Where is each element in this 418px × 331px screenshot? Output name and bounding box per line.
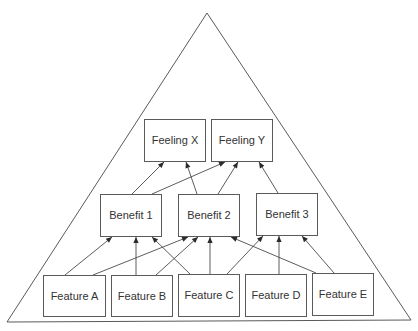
- node-feature-b: Feature B: [112, 276, 173, 317]
- arrowhead-icon: [181, 237, 188, 242]
- arrowhead-icon: [106, 237, 112, 243]
- node-feature-d: Feature D: [246, 275, 307, 317]
- node-feeling-y: Feeling Y: [212, 120, 273, 162]
- node-feature-c: Feature C: [179, 275, 240, 317]
- node-feeling-x: Feeling X: [145, 120, 206, 162]
- node-label: Benefit 3: [265, 208, 308, 220]
- arrow-feature-b-to-benefit-2: [156, 237, 198, 275]
- arrow-benefit-1-to-feeling-x: [132, 162, 164, 194]
- arrow-feature-e-to-benefit-3: [302, 236, 334, 273]
- node-feature-a: Feature A: [44, 276, 106, 317]
- node-label: Benefit 1: [109, 209, 152, 221]
- arrowhead-icon: [259, 162, 264, 168]
- arrow-feature-a-to-benefit-2: [93, 237, 188, 275]
- nodes-layer: Feeling XFeeling YBenefit 1Benefit 2Bene…: [44, 120, 374, 317]
- arrow-feature-c-to-benefit-1: [152, 237, 190, 274]
- node-label: Feature B: [118, 290, 166, 302]
- arrowhead-icon: [207, 237, 212, 243]
- node-label: Benefit 2: [187, 209, 230, 221]
- node-label: Feature D: [252, 289, 301, 301]
- arrowhead-icon: [185, 162, 190, 169]
- node-benefit-2: Benefit 2: [179, 195, 240, 237]
- arrowhead-icon: [276, 236, 281, 242]
- node-label: Feature A: [51, 290, 99, 302]
- node-feature-e: Feature E: [313, 274, 374, 316]
- node-label: Feature E: [319, 288, 367, 300]
- arrow-feature-c-to-benefit-3: [227, 236, 263, 274]
- arrow-feature-a-to-benefit-1: [65, 237, 112, 275]
- node-label: Feature C: [185, 289, 234, 301]
- arrowhead-icon: [133, 237, 138, 243]
- arrowhead-icon: [233, 162, 238, 168]
- arrow-feature-e-to-benefit-2: [231, 237, 316, 273]
- node-label: Feeling X: [152, 134, 199, 146]
- node-label: Feeling Y: [219, 134, 266, 146]
- node-benefit-3: Benefit 3: [257, 194, 318, 236]
- node-benefit-1: Benefit 1: [101, 195, 162, 237]
- benefit-ladder-diagram: Feeling XFeeling YBenefit 1Benefit 2Bene…: [0, 0, 418, 331]
